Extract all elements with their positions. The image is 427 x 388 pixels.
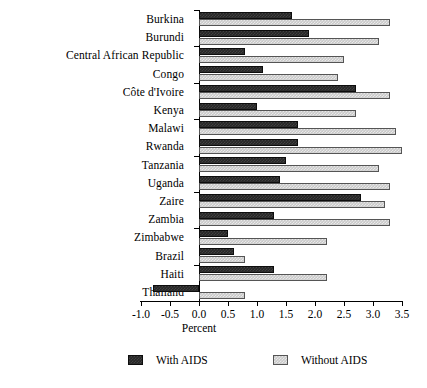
bar-without-aids	[199, 238, 327, 245]
bar-without-aids	[199, 92, 390, 99]
category-tick	[194, 156, 199, 157]
category-tick	[194, 10, 199, 11]
x-axis-title: Percent	[139, 322, 259, 334]
bar-with-aids	[199, 85, 356, 92]
category-label: Zimbabwe	[134, 228, 184, 246]
bar-without-aids	[199, 256, 245, 263]
bar-with-aids	[199, 139, 298, 146]
bar-with-aids	[199, 66, 263, 73]
bar-without-aids	[199, 147, 402, 154]
category-label: Burundi	[146, 28, 184, 46]
bar-with-aids	[199, 30, 309, 37]
category-label: Zambia	[148, 210, 184, 228]
bar-with-aids	[199, 12, 292, 19]
category-label: Rwanda	[146, 137, 184, 155]
bar-without-aids	[199, 19, 390, 26]
bar-with-aids	[199, 121, 298, 128]
legend-label-without-aids: Without AIDS	[301, 354, 367, 366]
x-axis-tick	[170, 301, 171, 306]
x-axis-tick	[315, 301, 316, 306]
bar-with-aids	[199, 48, 245, 55]
legend-item-without-aids: Without AIDS	[273, 352, 367, 368]
plot-area	[199, 10, 403, 301]
bar-without-aids	[199, 219, 390, 226]
category-label: Côte d'Ivoire	[123, 83, 184, 101]
bar-with-aids	[199, 230, 228, 237]
x-axis-tick	[228, 301, 229, 306]
bar-with-aids	[153, 285, 199, 292]
category-tick	[194, 119, 199, 120]
chart-legend: With AIDS Without AIDS	[0, 352, 427, 376]
x-axis-line	[140, 301, 403, 302]
x-axis-tick	[344, 301, 345, 306]
bar-without-aids	[199, 165, 379, 172]
category-tick	[194, 83, 199, 84]
bar-with-aids	[199, 157, 286, 164]
legend-item-with-aids: With AIDS	[128, 352, 208, 368]
x-axis-tick-label: 3.5	[382, 307, 422, 321]
category-label: Haiti	[161, 265, 185, 283]
category-label: Brazil	[155, 247, 184, 265]
x-axis-tick	[286, 301, 287, 306]
bar-with-aids	[199, 212, 274, 219]
bar-with-aids	[199, 266, 274, 273]
category-tick	[194, 228, 199, 229]
legend-label-with-aids: With AIDS	[156, 354, 208, 366]
bar-without-aids	[199, 274, 327, 281]
x-axis-tick	[257, 301, 258, 306]
bar-without-aids	[199, 56, 344, 63]
legend-swatch-without-aids	[273, 355, 288, 365]
bar-with-aids	[199, 176, 280, 183]
bar-without-aids	[199, 292, 245, 299]
bar-without-aids	[199, 38, 379, 45]
category-axis-labels: BurkinaBurundiCentral African RepublicCo…	[0, 10, 190, 301]
category-label: Burkina	[146, 10, 184, 28]
category-label: Uganda	[148, 174, 184, 192]
x-axis-tick	[141, 301, 142, 306]
x-axis-tick	[373, 301, 374, 306]
legend-swatch-with-aids	[128, 355, 143, 365]
category-tick	[194, 265, 199, 266]
category-label: Tanzania	[142, 156, 184, 174]
bar-without-aids	[199, 201, 385, 208]
population-growth-bar-chart: BurkinaBurundiCentral African RepublicCo…	[0, 0, 427, 388]
category-label: Kenya	[153, 101, 184, 119]
bar-with-aids	[199, 248, 234, 255]
bar-without-aids	[199, 128, 396, 135]
category-tick	[194, 46, 199, 47]
bar-without-aids	[199, 74, 338, 81]
category-label: Congo	[153, 65, 184, 83]
category-tick	[194, 192, 199, 193]
bar-with-aids	[199, 194, 361, 201]
x-axis-tick	[199, 301, 200, 306]
category-label: Zaire	[159, 192, 184, 210]
bar-with-aids	[199, 103, 257, 110]
x-axis-tick	[402, 301, 403, 306]
category-label: Central African Republic	[66, 46, 184, 64]
category-label: Malawi	[148, 119, 184, 137]
bar-without-aids	[199, 183, 390, 190]
bar-without-aids	[199, 110, 356, 117]
